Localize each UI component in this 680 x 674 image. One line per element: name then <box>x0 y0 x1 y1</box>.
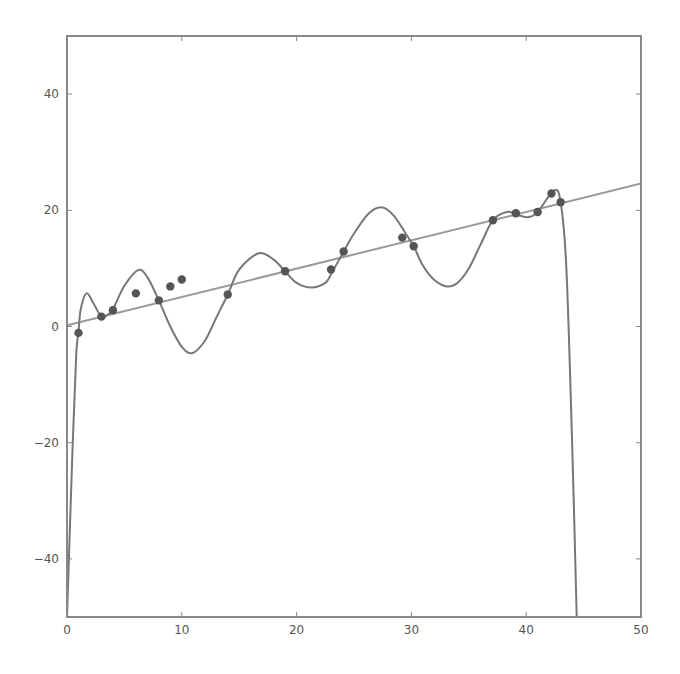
x-tick-label: 20 <box>289 623 304 637</box>
data-point <box>398 233 406 241</box>
data-point <box>97 312 105 320</box>
data-point <box>109 306 117 314</box>
data-point <box>74 329 82 337</box>
chart: 01020304050 −40−2002040 <box>0 0 680 674</box>
y-tick-label: −20 <box>34 436 59 450</box>
data-point <box>281 267 289 275</box>
x-tick-label: 40 <box>519 623 534 637</box>
y-tick-label: 20 <box>44 203 59 217</box>
data-point <box>166 282 174 290</box>
plot-area <box>67 36 641 617</box>
data-point <box>327 265 335 273</box>
data-point <box>489 216 497 224</box>
data-point <box>155 296 163 304</box>
data-point <box>556 198 564 206</box>
data-point <box>339 247 347 255</box>
data-point <box>132 289 140 297</box>
data-point <box>533 208 541 216</box>
data-point <box>512 209 520 217</box>
y-tick-label: 0 <box>51 320 59 334</box>
x-tick-label: 10 <box>174 623 189 637</box>
x-tick-label: 50 <box>633 623 648 637</box>
x-tick-label: 0 <box>63 623 71 637</box>
y-tick-label: 40 <box>44 87 59 101</box>
x-tick-label: 30 <box>404 623 419 637</box>
data-point <box>409 242 417 250</box>
data-point <box>178 275 186 283</box>
data-point <box>547 189 555 197</box>
y-tick-label: −40 <box>34 552 59 566</box>
data-point <box>224 290 232 298</box>
